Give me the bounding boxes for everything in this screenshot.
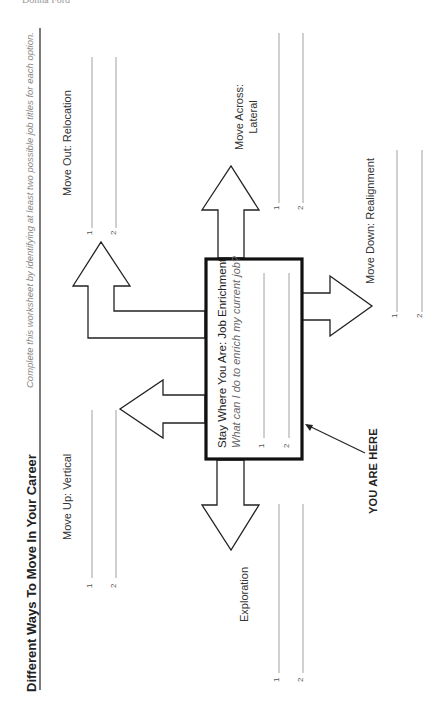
realignment-arrow-icon [302, 276, 372, 336]
lateral-label-line2: Lateral [246, 82, 260, 152]
realignment-label: Move Down: Realignment [364, 158, 376, 284]
exploration-arrow-icon [202, 460, 259, 550]
worksheet-title: Different Ways To Move In Your Career [24, 454, 39, 692]
relocation-num-2: 2 [109, 231, 118, 235]
vertical-label: Move Up: Vertical [61, 454, 73, 540]
relocation-arrow-icon [73, 242, 205, 338]
lateral-label-line1: Move Across: [232, 82, 246, 152]
lateral-num-2: 2 [296, 206, 305, 210]
you-are-here-pointer [307, 425, 365, 453]
center-box-title: Stay Where You Are: Job Enrichment [216, 259, 228, 448]
you-are-here-label: YOU ARE HERE [367, 428, 379, 514]
vertical-num-1: 1 [85, 584, 94, 588]
relocation-num-1: 1 [85, 231, 94, 235]
realignment-num-2: 2 [415, 314, 424, 318]
exploration-label: Exploration [238, 567, 250, 622]
worksheet-instructions: Complete this worksheet by identifying a… [24, 32, 35, 388]
realignment-num-1: 1 [390, 314, 399, 318]
vertical-arrow-icon [120, 380, 205, 438]
lateral-arrow-icon [202, 166, 259, 258]
exploration-num-2: 2 [296, 678, 305, 682]
lateral-num-1: 1 [272, 206, 281, 210]
enrichment-num-2: 2 [282, 444, 291, 448]
lateral-label: Move Across: Lateral [232, 82, 260, 152]
relocation-label: Move Out: Relocation [61, 90, 73, 196]
vertical-num-2: 2 [109, 584, 118, 588]
enrichment-num-1: 1 [257, 444, 266, 448]
exploration-num-1: 1 [272, 678, 281, 682]
center-box-question: What can I do to enrich my current job? [230, 256, 242, 448]
